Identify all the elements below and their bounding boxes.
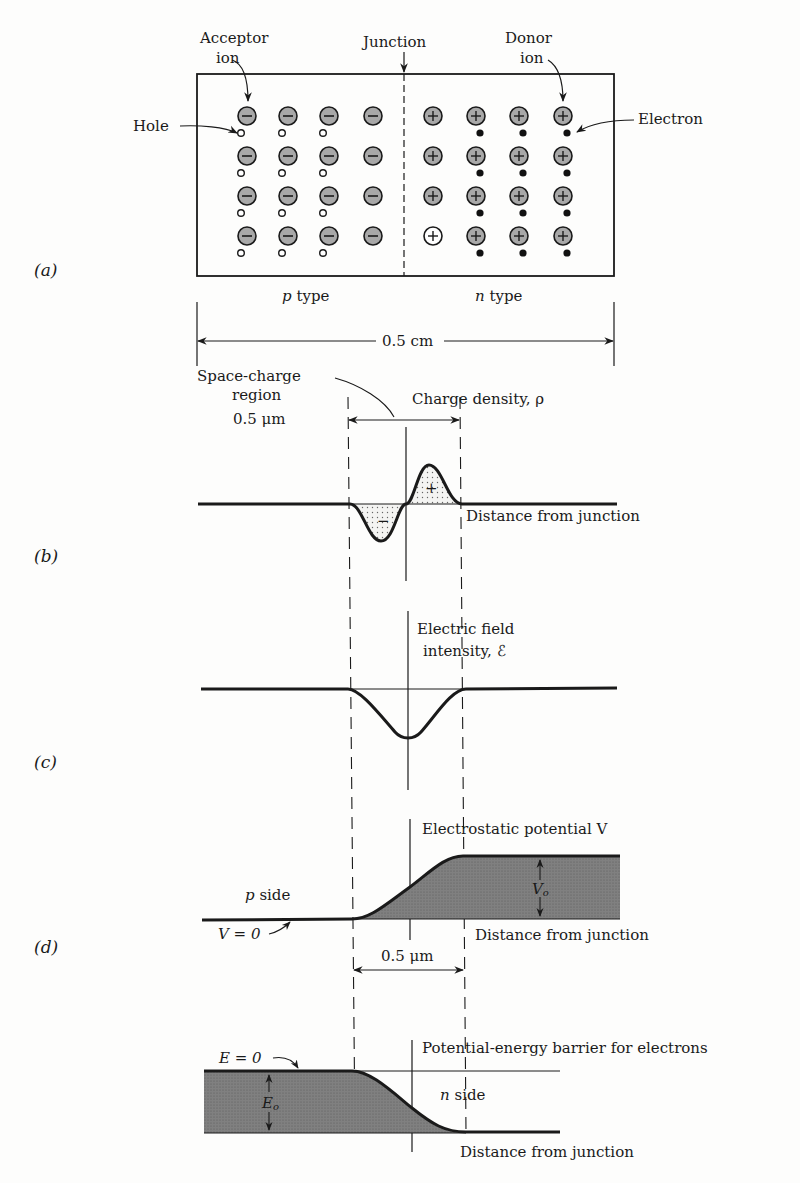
donor-label-ion: ion — [520, 49, 544, 67]
panel-a: (a) Acceptor ion Junction Donor ion Hole… — [34, 29, 703, 366]
hole — [238, 170, 245, 177]
electron-label: Electron — [638, 110, 703, 128]
electron — [476, 249, 483, 256]
positive-sign: + — [425, 479, 438, 497]
distance-label-b: Distance from junction — [466, 507, 640, 525]
hole — [238, 130, 245, 137]
electron — [476, 169, 483, 176]
electron — [563, 249, 570, 256]
electron — [476, 129, 483, 136]
distance-label-d: Distance from junction — [475, 926, 649, 944]
electron — [519, 209, 526, 216]
panel-b: (b) Space-charge region 0.5 μm Charge de… — [34, 367, 640, 581]
electric-field-label: Electric field — [417, 620, 515, 638]
electron — [519, 169, 526, 176]
electric-field-label-2: intensity, ℰ — [423, 642, 506, 660]
hole — [238, 250, 245, 257]
hole — [320, 130, 327, 137]
hole — [238, 210, 245, 217]
junction-label: Junction — [361, 33, 427, 51]
width-label: 0.5 cm — [382, 332, 433, 350]
p-side-label: p side — [245, 886, 290, 904]
pn-junction-diagram: (a) Acceptor ion Junction Donor ion Hole… — [0, 0, 800, 1183]
hole — [320, 250, 327, 257]
hole-label: Hole — [133, 117, 169, 135]
crystal-box — [197, 74, 614, 276]
electron — [563, 209, 570, 216]
energy-shaded-area — [204, 1071, 466, 1133]
width-label-d: 0.5 μm — [381, 947, 434, 965]
v-zero-arrow — [269, 922, 290, 934]
v-zero-label: V = 0 — [218, 925, 261, 943]
electron — [563, 169, 570, 176]
ion-grid — [238, 107, 572, 257]
panel-d-label: (d) — [34, 937, 58, 957]
n-side-label: n side — [440, 1086, 486, 1104]
electron — [476, 209, 483, 216]
electron — [563, 129, 570, 136]
space-charge-label: Space-charge — [197, 367, 301, 385]
electric-field-curve — [201, 688, 617, 738]
potential-label: Electrostatic potential V — [422, 820, 608, 838]
electron-arrow — [577, 120, 634, 132]
negative-sign: − — [377, 512, 390, 530]
panel-e: Potential-energy barrier for electrons E… — [204, 1039, 708, 1161]
charge-density-curve — [198, 465, 617, 541]
charge-density-label: Charge density, ρ — [412, 390, 544, 408]
donor-arrow — [548, 60, 563, 101]
hole — [279, 130, 286, 137]
electron — [519, 129, 526, 136]
region-width-label: 0.5 μm — [233, 410, 286, 428]
n-type-label: n type — [475, 287, 523, 305]
region-leader — [335, 378, 394, 417]
p-type-label: p type — [282, 287, 329, 305]
hole — [279, 170, 286, 177]
panel-a-label: (a) — [34, 260, 57, 280]
potential-shaded-area — [352, 856, 620, 919]
donor-label: Donor — [505, 29, 553, 47]
distance-label-e: Distance from junction — [460, 1143, 634, 1161]
hole — [279, 210, 286, 217]
barrier-label: Potential-energy barrier for electrons — [422, 1039, 708, 1057]
hole — [320, 170, 327, 177]
acceptor-label: Acceptor — [199, 29, 269, 47]
left-boundary-dashed — [348, 397, 355, 1133]
e-zero-arrow — [273, 1057, 298, 1068]
acceptor-label-ion: ion — [216, 49, 240, 67]
panel-c: (c) Electric field intensity, ℰ — [34, 611, 617, 790]
panel-b-label: (b) — [34, 546, 58, 566]
hole — [279, 250, 286, 257]
hole — [320, 210, 327, 217]
electron — [519, 249, 526, 256]
hole-arrow — [180, 126, 237, 133]
panel-d: (d) Electrostatic potential V Vo p side … — [34, 819, 649, 970]
e-zero-label: E = 0 — [218, 1049, 262, 1067]
region-label: region — [232, 386, 281, 404]
panel-c-label: (c) — [34, 752, 57, 772]
